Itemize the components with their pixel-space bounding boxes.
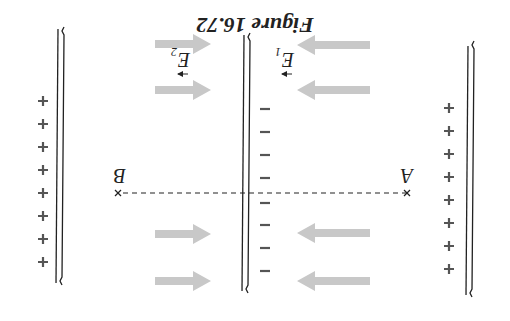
svg-text:E: E	[282, 49, 295, 71]
svg-text:2: 2	[171, 45, 177, 59]
figure-title: Figure 16.72	[196, 13, 314, 38]
middle-plate-charges	[260, 109, 270, 271]
point-b-label: B	[114, 165, 126, 187]
field-arrows-e1	[297, 35, 370, 291]
svg-text:E: E	[178, 49, 191, 71]
point-a-label: A	[400, 165, 415, 187]
field-arrows-e2	[155, 34, 211, 291]
point-b-marker	[115, 190, 121, 196]
left-plate-charges	[444, 103, 454, 274]
e1-label: E 1	[275, 45, 295, 74]
left-plate	[466, 41, 474, 297]
figure-16-72: Figure 16.72	[0, 0, 510, 321]
right-plate	[56, 27, 64, 285]
svg-text:1: 1	[275, 45, 281, 59]
right-plate-charges	[38, 96, 48, 267]
middle-plate	[242, 33, 250, 293]
e2-label: E 2	[171, 45, 191, 74]
